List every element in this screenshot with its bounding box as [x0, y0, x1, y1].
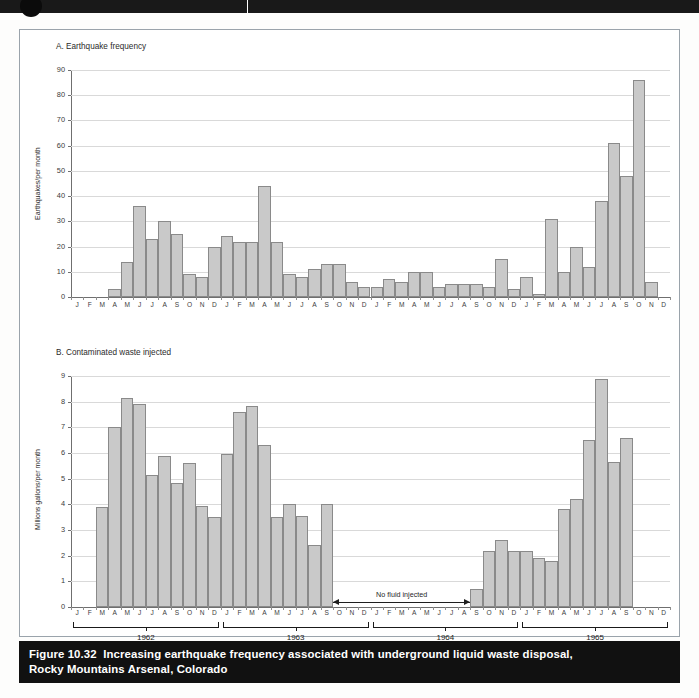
month-label: O — [633, 609, 645, 616]
bar — [633, 80, 645, 297]
bar — [608, 462, 620, 607]
month-label: D — [658, 609, 670, 616]
bar — [583, 440, 595, 607]
panel-a-x-tick — [183, 297, 184, 300]
month-label: D — [508, 609, 520, 616]
month-label: N — [495, 609, 507, 616]
bar — [233, 242, 245, 297]
panel-a-x-tick — [121, 297, 122, 300]
month-label: A — [158, 301, 170, 308]
bar — [508, 289, 520, 297]
month-label: J — [520, 301, 532, 308]
no-fluid-arrow-line — [333, 602, 470, 603]
month-label: J — [283, 301, 295, 308]
month-label: N — [346, 609, 358, 616]
panel-b-x-tick — [670, 607, 671, 610]
month-label: A — [158, 609, 170, 616]
panel-a-x-tick — [83, 297, 84, 300]
panel-a-y-tick-label: 60 — [51, 141, 65, 150]
month-label: N — [645, 609, 657, 616]
month-label: M — [545, 609, 557, 616]
panel-b-y-tick-mark — [68, 530, 71, 531]
month-label: J — [520, 609, 532, 616]
page-corner-dot — [20, 0, 42, 17]
panel-b-y-tick-label: 4 — [57, 499, 65, 508]
panel-a-y-tick-mark — [68, 221, 71, 222]
month-label: O — [333, 301, 345, 308]
month-label: A — [608, 609, 620, 616]
arrow-right-icon — [464, 599, 470, 605]
month-label: M — [246, 301, 258, 308]
panel-a-y-tick-label: 50 — [51, 166, 65, 175]
panel-a-x-tick — [608, 297, 609, 300]
panel-b-y-tick-mark — [68, 581, 71, 582]
bar — [133, 404, 145, 607]
month-label: A — [558, 301, 570, 308]
month-label: F — [383, 609, 395, 616]
panel-a-x-tick — [358, 297, 359, 300]
panel-a-y-tick-label: 90 — [51, 65, 65, 74]
month-label: N — [346, 301, 358, 308]
panel-a-x-tick — [620, 297, 621, 300]
panel-b-gridline — [71, 376, 670, 377]
month-label: S — [470, 609, 482, 616]
month-label: J — [445, 301, 457, 308]
month-label: J — [583, 609, 595, 616]
month-label: S — [171, 609, 183, 616]
panel-a-gridline — [71, 196, 670, 197]
panel-a-x-tick — [595, 297, 596, 300]
panel-a-y-tick-label: 10 — [51, 267, 65, 276]
bar — [483, 287, 495, 297]
month-label: N — [495, 301, 507, 308]
bar — [358, 287, 370, 297]
month-label: D — [208, 609, 220, 616]
year-bracket-tick — [445, 627, 446, 631]
panel-b-y-axis-line — [71, 376, 72, 607]
month-label: M — [545, 301, 557, 308]
month-label: J — [296, 301, 308, 308]
month-label: A — [458, 301, 470, 308]
bar — [558, 272, 570, 297]
panel-b-y-tick-mark — [68, 504, 71, 505]
panel-a-y-tick-label: 30 — [51, 216, 65, 225]
panel-a-x-tick — [408, 297, 409, 300]
panel-a-y-tick-label: 0 — [51, 292, 65, 301]
bar — [645, 282, 657, 297]
bar — [158, 221, 170, 297]
figure-frame: A. Earthquake frequency Earthquakes/per … — [19, 29, 680, 637]
month-label: A — [608, 301, 620, 308]
month-label: M — [246, 609, 258, 616]
bar — [108, 427, 120, 607]
panel-b-y-tick-label: 1 — [57, 576, 65, 585]
bar — [420, 272, 432, 297]
panel-b-y-tick-label: 5 — [57, 474, 65, 483]
panel-a-x-tick — [633, 297, 634, 300]
panel-a-x-tick — [458, 297, 459, 300]
bar — [158, 456, 170, 607]
month-label: J — [146, 301, 158, 308]
panel-b-y-tick-mark — [68, 453, 71, 454]
month-label: O — [483, 609, 495, 616]
panel-a-y-tick-label: 80 — [51, 90, 65, 99]
month-label: F — [233, 301, 245, 308]
panel-a-y-tick-mark — [68, 196, 71, 197]
panel-a-x-tick — [133, 297, 134, 300]
month-label: O — [183, 301, 195, 308]
panel-a-y-tick-mark — [68, 171, 71, 172]
panel-a-x-tick — [420, 297, 421, 300]
panel-a-title: A. Earthquake frequency — [56, 42, 146, 51]
panel-a-x-tick — [346, 297, 347, 300]
panel-a-x-tick — [158, 297, 159, 300]
month-label: J — [595, 609, 607, 616]
month-label: M — [395, 609, 407, 616]
panel-b-y-tick-mark — [68, 427, 71, 428]
panel-a-x-tick — [483, 297, 484, 300]
panel-a-x-tick — [545, 297, 546, 300]
bar — [445, 284, 457, 297]
bar — [346, 282, 358, 297]
month-label: F — [533, 301, 545, 308]
bar — [583, 267, 595, 297]
bar — [620, 438, 632, 607]
panel-b-gridline — [71, 427, 670, 428]
panel-a-y-tick-mark — [68, 247, 71, 248]
